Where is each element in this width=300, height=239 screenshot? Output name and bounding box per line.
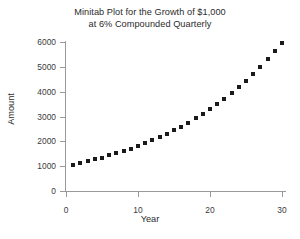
data-point (222, 97, 226, 101)
y-tick-label: 3000 (26, 113, 56, 121)
y-tick-mark (60, 141, 65, 142)
y-tick-label: 0 (26, 187, 56, 195)
data-point (71, 163, 75, 167)
y-tick-mark (60, 191, 65, 192)
data-point (114, 151, 118, 155)
y-tick-mark (60, 166, 65, 167)
data-point (136, 144, 140, 148)
data-point (201, 112, 205, 116)
chart-title: Minitab Plot for the Growth of $1,000 at… (0, 6, 300, 30)
y-axis-title: Amount (6, 79, 16, 139)
data-point (172, 128, 176, 132)
y-tick-label: 2000 (26, 137, 56, 145)
data-point (78, 161, 82, 165)
chart-title-line-2: at 6% Compounded Quarterly (0, 18, 300, 30)
x-tick-mark (66, 192, 67, 197)
data-point (93, 157, 97, 161)
data-point (237, 85, 241, 89)
data-point (230, 91, 234, 95)
y-tick-mark (60, 42, 65, 43)
y-tick-mark (60, 117, 65, 118)
data-point (107, 153, 111, 157)
data-point (150, 138, 154, 142)
data-point (129, 147, 133, 151)
x-tick-mark (138, 192, 139, 197)
data-point (122, 149, 126, 153)
chart-title-line-1: Minitab Plot for the Growth of $1,000 (0, 6, 300, 18)
y-tick-label: 1000 (26, 162, 56, 170)
x-axis-line (65, 191, 286, 192)
data-point (251, 72, 255, 76)
data-point (215, 102, 219, 106)
data-point (143, 141, 147, 145)
data-point (280, 41, 284, 45)
chart-canvas: Minitab Plot for the Growth of $1,000 at… (0, 0, 300, 239)
data-point (179, 125, 183, 129)
y-axis-line (65, 41, 66, 192)
data-point (158, 135, 162, 139)
data-point (208, 107, 212, 111)
y-tick-mark (60, 92, 65, 93)
y-tick-label: 5000 (26, 63, 56, 71)
y-tick-mark (60, 67, 65, 68)
data-point (186, 121, 190, 125)
data-point (244, 79, 248, 83)
data-point (100, 156, 104, 160)
data-point (194, 116, 198, 120)
data-point (86, 159, 90, 163)
data-point (258, 65, 262, 69)
data-point (266, 57, 270, 61)
y-tick-label: 4000 (26, 88, 56, 96)
data-point (165, 132, 169, 136)
data-point (273, 49, 277, 53)
x-tick-mark (282, 192, 283, 197)
x-axis-title: Year (0, 214, 300, 224)
y-tick-label: 6000 (26, 38, 56, 46)
x-tick-mark (210, 192, 211, 197)
